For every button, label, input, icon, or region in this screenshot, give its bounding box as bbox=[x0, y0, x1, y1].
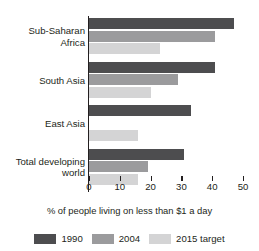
bar bbox=[89, 62, 215, 73]
bar bbox=[89, 161, 148, 172]
bar-group bbox=[89, 105, 243, 143]
bar bbox=[89, 149, 184, 160]
bar-group bbox=[89, 62, 243, 100]
bar bbox=[89, 74, 178, 85]
bar bbox=[89, 43, 160, 54]
category-label-line: South Asia bbox=[0, 75, 85, 86]
x-axis-tick-label: 30 bbox=[166, 181, 196, 192]
category-label: Sub-SaharanAfrica bbox=[0, 25, 85, 48]
category-label: East Asia bbox=[0, 118, 85, 129]
category-label-line: Total developing bbox=[0, 156, 85, 167]
bar-group bbox=[89, 18, 243, 56]
category-label-line: world bbox=[0, 167, 85, 178]
legend-item[interactable]: 2004 bbox=[92, 233, 140, 244]
bar bbox=[89, 87, 151, 98]
bar bbox=[89, 105, 191, 116]
category-label-line: Africa bbox=[0, 37, 85, 48]
bar bbox=[89, 31, 215, 42]
category-label: South Asia bbox=[0, 75, 85, 86]
bar bbox=[89, 130, 138, 141]
bar bbox=[89, 18, 234, 29]
legend-swatch bbox=[34, 234, 56, 244]
legend-label: 1990 bbox=[61, 233, 82, 244]
category-label: Total developingworld bbox=[0, 156, 85, 179]
x-axis-tick-label: 40 bbox=[197, 181, 227, 192]
legend-swatch bbox=[149, 234, 171, 244]
x-axis-tick-label: 10 bbox=[105, 181, 135, 192]
legend-item[interactable]: 1990 bbox=[34, 233, 82, 244]
legend-label: 2015 target bbox=[176, 233, 225, 244]
x-axis-title: % of people living on less than $1 a day bbox=[0, 205, 259, 216]
x-axis-tick-label: 50 bbox=[228, 181, 258, 192]
x-axis-tick-label: 20 bbox=[136, 181, 166, 192]
category-axis-labels: Sub-SaharanAfricaSouth AsiaEast AsiaTota… bbox=[0, 16, 85, 190]
chart-legend: 199020042015 target bbox=[0, 233, 259, 244]
legend-item[interactable]: 2015 target bbox=[149, 233, 225, 244]
category-label-line: Sub-Saharan bbox=[0, 25, 85, 36]
x-axis-tick-label: 0 bbox=[74, 181, 104, 192]
bar-chart: Sub-SaharanAfricaSouth AsiaEast AsiaTota… bbox=[0, 0, 259, 251]
legend-swatch bbox=[92, 234, 114, 244]
category-label-line: East Asia bbox=[0, 118, 85, 129]
plot-area bbox=[89, 16, 243, 190]
legend-label: 2004 bbox=[119, 233, 140, 244]
